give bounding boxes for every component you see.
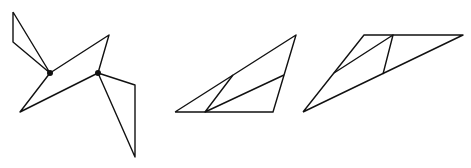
line-segment xyxy=(13,12,50,73)
line-segment xyxy=(175,35,296,112)
vertex-dot xyxy=(95,70,101,76)
vertex-dot xyxy=(47,70,53,76)
line-segment xyxy=(205,75,284,112)
figure-1 xyxy=(13,12,135,157)
geometry-diagram xyxy=(0,0,471,168)
figure-3 xyxy=(303,35,463,112)
line-segment xyxy=(334,35,393,74)
line-segment xyxy=(98,73,135,157)
figure-2 xyxy=(175,35,296,112)
